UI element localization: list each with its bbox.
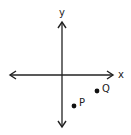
point-p-dot xyxy=(72,104,77,109)
point-q: Q xyxy=(95,83,110,94)
coordinate-plane: y x Q P xyxy=(0,0,131,135)
y-axis-label: y xyxy=(59,7,65,18)
point-q-label: Q xyxy=(102,83,110,94)
point-p-label: P xyxy=(79,97,85,108)
point-p: P xyxy=(72,97,85,108)
x-axis-label: x xyxy=(118,69,124,80)
point-q-dot xyxy=(95,89,100,94)
